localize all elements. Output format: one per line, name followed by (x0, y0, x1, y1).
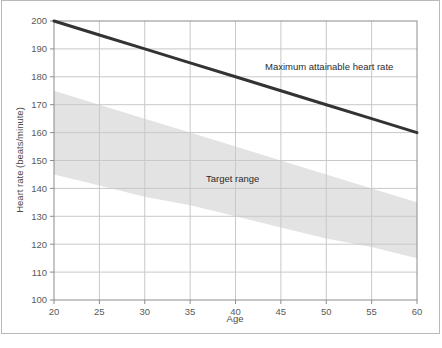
y-tick-label: 170 (31, 99, 47, 110)
y-tick-label: 150 (31, 155, 47, 166)
heart-rate-chart: 100110120130140150160170180190200 202530… (0, 0, 442, 348)
x-tick-label: 60 (412, 306, 423, 317)
x-tick-label: 55 (366, 306, 377, 317)
x-tick-label: 45 (276, 306, 287, 317)
x-tick-label: 50 (321, 306, 332, 317)
y-tick-label: 200 (31, 15, 47, 26)
x-tick-label: 20 (49, 306, 60, 317)
y-tick-label: 120 (31, 239, 47, 250)
chart-figure: 100110120130140150160170180190200 202530… (0, 0, 442, 348)
y-tick-label: 130 (31, 211, 47, 222)
y-tick-label: 160 (31, 127, 47, 138)
y-axis-title: Heart rate (beats/minute) (14, 107, 25, 213)
y-tick-label: 190 (31, 43, 47, 54)
max-heart-rate-annotation: Maximum attainable heart rate (265, 61, 393, 72)
y-axis-ticks: 100110120130140150160170180190200 (31, 15, 54, 305)
y-tick-label: 110 (32, 267, 47, 278)
x-tick-label: 25 (94, 306, 105, 317)
y-tick-label: 140 (31, 183, 47, 194)
target-range-annotation: Target range (206, 173, 259, 184)
y-tick-label: 180 (31, 71, 47, 82)
x-tick-label: 30 (139, 306, 150, 317)
x-tick-label: 35 (185, 306, 196, 317)
x-axis-title: Age (227, 313, 244, 324)
y-tick-label: 100 (31, 294, 47, 305)
